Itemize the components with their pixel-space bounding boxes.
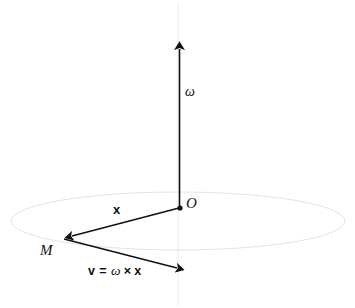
rotation-diagram: ω O M x v=ω×x bbox=[0, 0, 355, 308]
origin-point-marker bbox=[177, 205, 182, 210]
velocity-equation-omega: ω bbox=[111, 263, 121, 278]
velocity-equation-label: v=ω×x bbox=[88, 264, 142, 278]
origin-label: O bbox=[186, 196, 197, 211]
diagram-canvas bbox=[0, 0, 355, 308]
mass-point-label: M bbox=[40, 243, 53, 258]
position-vector bbox=[72, 208, 179, 236]
velocity-equation-equals: = bbox=[99, 264, 107, 278]
angular-velocity-label: ω bbox=[185, 85, 195, 99]
velocity-equation-cross: × bbox=[124, 264, 132, 278]
position-vector-label: x bbox=[113, 203, 120, 216]
velocity-equation-rhs: x bbox=[134, 264, 141, 278]
velocity-equation-lhs: v bbox=[88, 264, 95, 278]
